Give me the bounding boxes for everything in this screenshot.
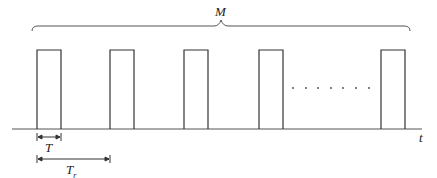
pulse-5 bbox=[381, 50, 405, 129]
pulse-train-diagram: M t T Tr bbox=[0, 0, 437, 178]
label-period-sub: r bbox=[73, 171, 76, 178]
pulse-4 bbox=[259, 50, 283, 129]
brace-m bbox=[32, 20, 410, 31]
pulse-1 bbox=[37, 50, 61, 129]
diagram-canvas bbox=[0, 0, 437, 178]
label-m: M bbox=[215, 5, 226, 18]
pulse-2 bbox=[110, 50, 134, 129]
pulse-3 bbox=[184, 50, 208, 129]
period-dimension bbox=[37, 155, 110, 163]
ellipsis-dots bbox=[292, 87, 370, 89]
label-period: Tr bbox=[66, 163, 76, 178]
label-t-axis: t bbox=[419, 131, 423, 144]
label-pulse-width: T bbox=[45, 141, 52, 154]
pulse-group bbox=[37, 50, 405, 129]
